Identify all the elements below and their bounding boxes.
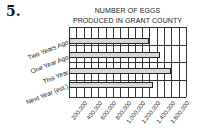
plot-area bbox=[69, 27, 186, 97]
category-label: Next Year (est.) bbox=[25, 82, 69, 105]
row-divider bbox=[69, 97, 186, 98]
row-divider bbox=[69, 62, 186, 63]
row-divider bbox=[69, 27, 186, 28]
row-divider bbox=[69, 80, 186, 81]
chart-title-line2: PRODUCED IN GRANT COUNTY bbox=[69, 17, 186, 24]
bar bbox=[69, 82, 153, 88]
bar bbox=[69, 38, 149, 44]
bar bbox=[69, 68, 171, 74]
bar bbox=[69, 52, 160, 58]
row-divider bbox=[69, 45, 186, 46]
question-number: 5. bbox=[6, 3, 21, 19]
chart-title-line1: NUMBER OF EGGS bbox=[69, 7, 186, 14]
gridline bbox=[186, 27, 187, 97]
